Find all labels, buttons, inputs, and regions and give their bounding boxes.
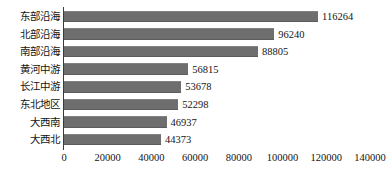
x-tick-label: 100000 [267,152,299,163]
bar [64,116,167,128]
x-tick-label: 140000 [354,152,386,163]
bar [64,99,178,111]
bar [64,134,161,146]
bar-value-label: 46937 [171,114,197,132]
x-axis: 020000400006000080000100000120000140000 [0,152,385,172]
bar-value-label: 88805 [262,43,288,61]
bar-value-label: 44373 [165,131,191,149]
bar [64,81,181,93]
x-tick-label: 40000 [138,152,164,163]
bar-row: 北部沿海96240 [0,26,385,44]
category-label: 东北地区 [20,96,60,114]
bar [64,46,258,58]
category-label: 东部沿海 [20,8,60,26]
bar-value-label: 116264 [322,8,353,26]
bar [64,28,274,40]
bar-row: 黄河中游56815 [0,61,385,79]
bar-row: 大西南46937 [0,114,385,132]
bar-value-label: 53678 [185,78,211,96]
bar-value-label: 52298 [182,96,208,114]
x-tick-label: 80000 [226,152,252,163]
category-label: 黄河中游 [20,61,60,79]
category-label: 南部沿海 [20,43,60,61]
bar-row: 南部沿海88805 [0,43,385,61]
category-label: 大西南 [30,114,60,132]
x-tick-label: 120000 [311,152,343,163]
x-tick-label: 60000 [182,152,208,163]
category-label: 北部沿海 [20,26,60,44]
bar-value-label: 96240 [278,26,304,44]
bar-value-label: 56815 [192,61,218,79]
x-tick-label: 0 [61,152,66,163]
x-tick-label: 20000 [95,152,121,163]
bar [64,11,318,23]
bar-row: 大西北44373 [0,131,385,149]
bar-row: 东部沿海116264 [0,8,385,26]
bar [64,63,188,75]
bar-row: 东北地区52298 [0,96,385,114]
bar-row: 长江中游53678 [0,78,385,96]
category-label: 长江中游 [20,78,60,96]
category-label: 大西北 [30,131,60,149]
